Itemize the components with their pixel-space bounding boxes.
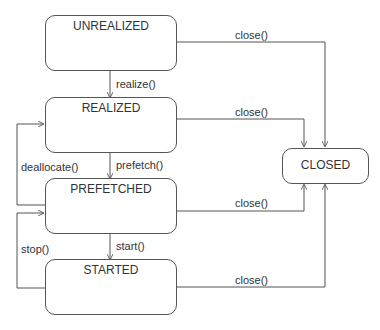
state-realized: REALIZED (45, 97, 177, 153)
state-label: CLOSED (283, 158, 368, 172)
transition-label-realize: realize() (116, 78, 156, 90)
state-label: STARTED (46, 263, 176, 277)
transition-label-close-started: close() (235, 274, 268, 286)
transition-label-close-unrealized: close() (235, 29, 268, 41)
transition-label-stop: stop() (21, 243, 49, 255)
transition-label-start: start() (116, 240, 145, 252)
state-label: PREFETCHED (46, 182, 176, 196)
transition-label-close-realized: close() (235, 106, 268, 118)
state-closed: CLOSED (282, 148, 369, 184)
transition-label-prefetch: prefetch() (116, 159, 163, 171)
state-label: REALIZED (46, 101, 176, 115)
transition-label-close-prefetched: close() (235, 197, 268, 209)
transition-label-deallocate: deallocate() (21, 161, 78, 173)
state-prefetched: PREFETCHED (45, 178, 177, 234)
state-unrealized: UNREALIZED (45, 15, 177, 71)
state-started: STARTED (45, 259, 177, 315)
state-label: UNREALIZED (46, 19, 176, 33)
